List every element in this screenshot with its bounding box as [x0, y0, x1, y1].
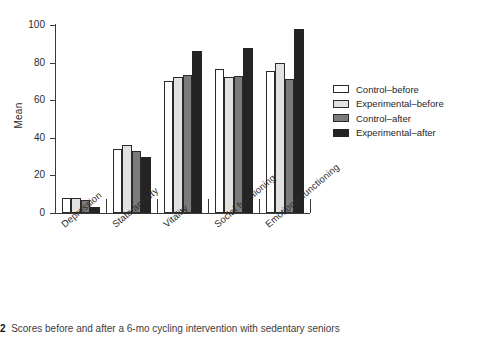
y-tick-label: 40: [19, 132, 45, 143]
bar: [275, 63, 285, 213]
y-tick-mark: [50, 175, 55, 176]
y-axis-line: [55, 24, 56, 214]
figure-caption: 2 Scores before and after a 6-mo cycling…: [0, 323, 480, 334]
legend-swatch: [333, 85, 349, 93]
bar: [224, 77, 234, 213]
x-tick-mark: [208, 199, 209, 213]
legend-item: Control–after: [333, 111, 444, 126]
bar: [266, 71, 276, 213]
y-tick-label: 100: [19, 19, 45, 30]
legend-swatch: [333, 129, 349, 137]
x-tick-mark: [157, 199, 158, 213]
bar: [215, 69, 225, 213]
legend-item: Experimental–after: [333, 126, 444, 141]
legend-label: Control–after: [356, 113, 411, 124]
x-tick-mark: [106, 199, 107, 213]
legend-label: Experimental–after: [356, 127, 436, 138]
y-tick-label: 0: [19, 207, 45, 218]
y-tick-label: 20: [19, 169, 45, 180]
y-tick-mark: [50, 213, 55, 214]
legend-item: Experimental–before: [333, 97, 444, 112]
y-tick-label: 80: [19, 57, 45, 68]
bar: [173, 77, 183, 213]
y-tick-mark: [50, 100, 55, 101]
bar: [294, 29, 304, 213]
bar: [164, 81, 174, 213]
legend-label: Experimental–before: [356, 98, 444, 109]
legend-swatch: [333, 100, 349, 108]
y-tick-mark: [50, 25, 55, 26]
figure-caption-text: Scores before and after a 6-mo cycling i…: [11, 323, 340, 334]
bar: [183, 75, 193, 213]
bar: [285, 79, 295, 213]
legend-item: Control–before: [333, 82, 444, 97]
legend-swatch: [333, 114, 349, 122]
y-tick-label: 60: [19, 94, 45, 105]
legend-label: Control–before: [356, 84, 419, 95]
y-tick-mark: [50, 63, 55, 64]
figure-bar-chart: Mean 020406080100 DepressionState anxiet…: [0, 0, 480, 339]
chart-legend: Control–beforeExperimental–beforeControl…: [333, 82, 444, 140]
y-tick-mark: [50, 138, 55, 139]
bar: [113, 149, 123, 213]
x-tick-mark: [259, 199, 260, 213]
x-tick-mark: [310, 199, 311, 213]
bar: [192, 51, 202, 213]
bar: [90, 207, 100, 213]
bar: [234, 76, 244, 213]
